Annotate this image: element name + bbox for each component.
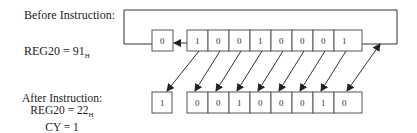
after-bit-box-4-value: 0: [279, 98, 284, 108]
before-bit-box-3-value: 1: [258, 36, 263, 46]
after-bit-box-6-value: 1: [321, 98, 326, 108]
shift-arrow-6: [300, 51, 325, 91]
shift-arrow-0: [167, 51, 199, 91]
before-bit-box-2-value: 0: [237, 36, 242, 46]
after-bit-box-6: 1: [313, 92, 334, 113]
before-bit-box-4-value: 0: [279, 36, 284, 46]
before-bit-box-5: 0: [292, 30, 313, 51]
before-bit-box-4: 0: [271, 30, 292, 51]
before-carry-box: 0: [152, 30, 173, 51]
before-bit-box-6-value: 0: [321, 36, 326, 46]
after-bit-box-4: 0: [271, 92, 292, 113]
before-bit-box-6: 0: [313, 30, 334, 51]
after-bit-box-2-value: 1: [237, 98, 242, 108]
after-bit-box-7: 0: [334, 92, 362, 113]
shift-arrow-1: [195, 51, 220, 91]
before-bit-box-7: 1: [334, 30, 362, 51]
before-bit-box-3: 1: [250, 30, 271, 51]
before-bit-box-1: 0: [208, 30, 229, 51]
before-bit-box-7-value: 1: [342, 36, 347, 46]
before-bit-box-2: 0: [229, 30, 250, 51]
before-bit-box-0-value: 1: [195, 36, 200, 46]
after-bit-box-3-value: 0: [258, 98, 263, 108]
before-bit-box-1-value: 0: [216, 36, 221, 46]
after-bit-box-1-value: 0: [216, 98, 221, 108]
after-bit-box-1: 0: [208, 92, 229, 113]
after-carry-box: 1: [152, 92, 172, 113]
before-carry-box-value: 0: [160, 36, 165, 46]
shift-arrow-4: [258, 51, 283, 91]
before-bit-box-0: 1: [187, 30, 208, 51]
after-bit-box-5-value: 0: [300, 98, 305, 108]
shift-arrow-7: [321, 51, 346, 91]
after-bit-box-2: 1: [229, 92, 250, 113]
after-bit-box-0-value: 0: [195, 98, 200, 108]
after-bit-box-5: 0: [292, 92, 313, 113]
shift-arrow-2: [216, 51, 241, 91]
shift-arrow-3: [237, 51, 262, 91]
after-carry-box-value: 1: [160, 98, 165, 108]
rotate-diagram: 010010001100100010: [0, 0, 417, 133]
after-bit-box-3: 0: [250, 92, 271, 113]
after-bit-box-7-value: 0: [342, 98, 347, 108]
after-bit-box-0: 0: [187, 92, 208, 113]
shift-arrow-5: [279, 51, 304, 91]
before-bit-box-5-value: 0: [300, 36, 305, 46]
